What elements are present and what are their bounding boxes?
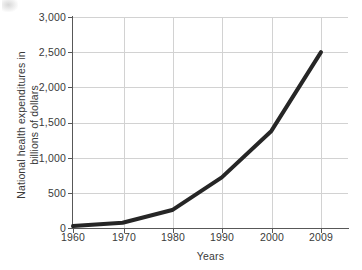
x-axis-line (72, 228, 349, 229)
y-tick-label-500: 500 (18, 188, 66, 199)
y-tick-label-1500: 1,500 (18, 117, 66, 128)
y-tick-label-3000: 3,000 (18, 12, 66, 23)
series-line-chart (73, 17, 348, 228)
plot-area (73, 17, 348, 228)
y-axis-tick-labels: 3,000 2,500 2,000 1,500 1,000 500 0 (18, 0, 66, 270)
x-axis-title: Years (73, 250, 348, 262)
chart-figure: National health expenditures in billions… (0, 0, 362, 270)
y-tick-label-1000: 1,000 (18, 153, 66, 164)
y-tick-label-2500: 2,500 (18, 47, 66, 58)
series-line-national-health-expenditures (73, 52, 321, 226)
x-tick-label-2009: 2009 (291, 232, 351, 243)
scan-artifact (2, 0, 18, 12)
y-tick-label-2000: 2,000 (18, 82, 66, 93)
